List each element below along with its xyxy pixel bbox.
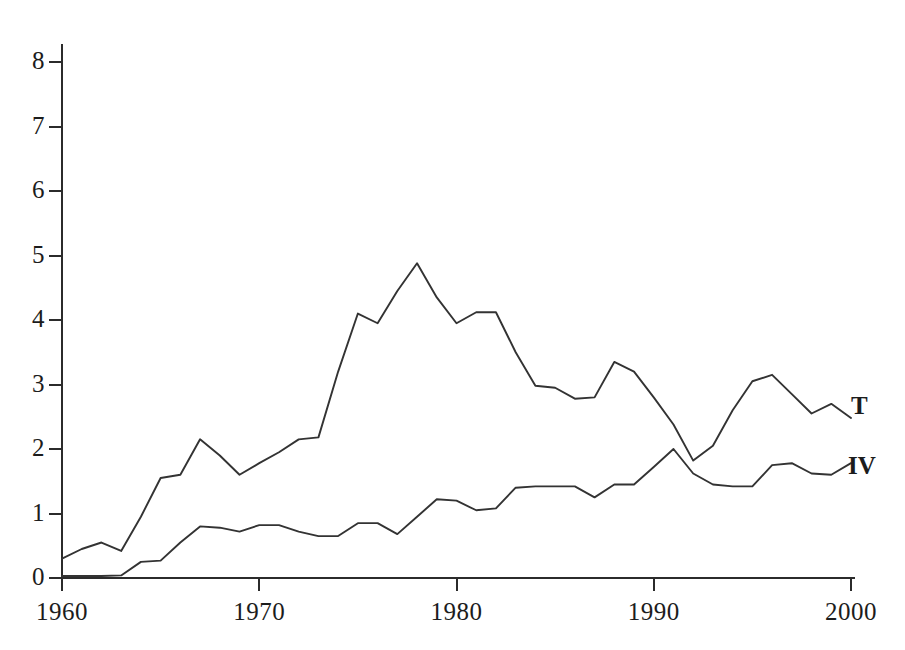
series-label-T: T — [851, 392, 868, 420]
chart-figure: 012345678 19601970198019902000 TIV — [0, 0, 905, 650]
y-tick-label-7: 7 — [11, 112, 45, 140]
y-tick-label-8: 8 — [11, 47, 45, 75]
axes-group — [62, 44, 855, 578]
y-tick-label-0: 0 — [11, 563, 45, 591]
x-tick-label-1970: 1970 — [204, 598, 314, 626]
chart-plot-area — [0, 0, 905, 650]
y-axis-ticks — [49, 62, 62, 578]
y-tick-label-6: 6 — [11, 176, 45, 204]
x-tick-label-1960: 1960 — [7, 598, 117, 626]
x-tick-label-2000: 2000 — [796, 598, 905, 626]
data-series-group — [62, 263, 851, 576]
y-tick-label-1: 1 — [11, 499, 45, 527]
y-tick-label-2: 2 — [11, 434, 45, 462]
series-line-IV — [62, 449, 851, 576]
y-tick-label-5: 5 — [11, 241, 45, 269]
x-tick-label-1980: 1980 — [402, 598, 512, 626]
y-tick-label-4: 4 — [11, 305, 45, 333]
series-line-T — [62, 263, 851, 558]
y-tick-label-3: 3 — [11, 370, 45, 398]
x-tick-label-1990: 1990 — [599, 598, 709, 626]
x-axis-ticks — [62, 578, 851, 591]
series-label-IV: IV — [848, 452, 876, 480]
